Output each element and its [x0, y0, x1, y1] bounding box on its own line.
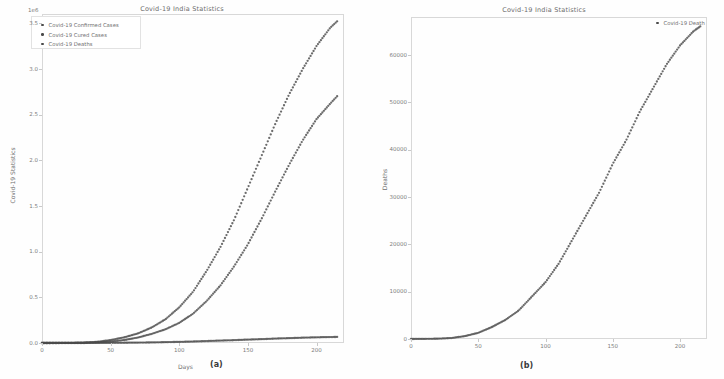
x-tick-mark [42, 343, 43, 346]
y-tick-mark [408, 102, 411, 103]
y-tick-label: 50000 [377, 99, 407, 105]
y-tick-label: 1.0 [8, 248, 38, 254]
y-tick-mark [408, 55, 411, 56]
x-tick-label: 100 [532, 343, 560, 349]
scatter-series-a [0, 0, 364, 379]
legend-item: Covid-19 Cured Cases [37, 30, 107, 40]
x-tick-label: 50 [97, 347, 125, 353]
y-tick-label: 0.0 [8, 340, 38, 346]
x-tick-mark [546, 339, 547, 342]
x-tick-label: 50 [464, 343, 492, 349]
y-tick-mark [408, 197, 411, 198]
legend-item-label: Covid-19 Confirmed Cases [49, 22, 119, 28]
x-tick-label: 150 [599, 343, 627, 349]
series-covid-19-death [410, 25, 702, 340]
x-tick-label: 100 [165, 347, 193, 353]
y-axis-label-b: Deaths [381, 150, 388, 210]
series-covid-19-confirmed-cases [41, 20, 338, 344]
x-tick-mark [411, 339, 412, 342]
y-tick-label: 0.5 [8, 294, 38, 300]
x-tick-label: 200 [303, 347, 331, 353]
y-tick-mark [408, 244, 411, 245]
y-tick-mark [39, 252, 42, 253]
x-tick-mark [111, 343, 112, 346]
series-covid-19-cured-cases [41, 95, 338, 344]
x-axis-label-a: Days [178, 363, 193, 370]
x-tick-mark [179, 343, 180, 346]
subfigure-caption-a: (a) [210, 360, 223, 369]
x-tick-label: 0 [397, 343, 425, 349]
legend-item-label: Covid-19 Cured Cases [49, 32, 107, 38]
panel-a: Covid-19 India Statistics 1e6 Covid-19 S… [0, 0, 364, 379]
x-tick-label: 0 [28, 347, 56, 353]
y-tick-mark [39, 297, 42, 298]
legend-marker-icon [656, 22, 659, 25]
y-tick-label: 3.5 [8, 20, 38, 26]
legend-item: Covid-19 Deaths [37, 39, 93, 49]
legend-b-label: Covid-19 Death [664, 20, 705, 26]
legend-marker-icon [41, 33, 44, 36]
y-tick-label: 2.0 [8, 157, 38, 163]
x-tick-mark [317, 343, 318, 346]
legend-a: Covid-19 Confirmed CasesCovid-19 Cured C… [31, 16, 141, 49]
x-tick-label: 200 [666, 343, 694, 349]
legend-item: Covid-19 Confirmed Cases [37, 20, 119, 30]
legend-marker-icon [41, 43, 44, 46]
figure-container: Covid-19 India Statistics 1e6 Covid-19 S… [0, 0, 724, 379]
y-tick-label: 2.5 [8, 111, 38, 117]
subfigure-caption-b: (b) [520, 361, 533, 370]
y-tick-label: 60000 [377, 52, 407, 58]
x-tick-mark [478, 339, 479, 342]
panel-b: Covid-19 India Statistics Days 010000200… [364, 0, 724, 379]
y-tick-mark [39, 206, 42, 207]
legend-item-label: Covid-19 Deaths [49, 41, 93, 47]
scatter-series-b [364, 0, 724, 379]
y-tick-mark [408, 150, 411, 151]
x-tick-mark [613, 339, 614, 342]
y-tick-label: 10000 [377, 288, 407, 294]
y-tick-label: 20000 [377, 241, 407, 247]
y-tick-mark [39, 115, 42, 116]
legend-marker-icon [41, 24, 44, 27]
y-tick-mark [39, 23, 42, 24]
y-tick-mark [39, 69, 42, 70]
series-covid-19-deaths [41, 336, 338, 344]
y-tick-label: 0 [377, 336, 407, 342]
y-tick-mark [39, 160, 42, 161]
y-tick-label: 3.0 [8, 66, 38, 72]
y-tick-mark [408, 292, 411, 293]
x-tick-mark [680, 339, 681, 342]
legend-b: Covid-19 Death [652, 20, 705, 26]
y-tick-label: 1.5 [8, 203, 38, 209]
x-tick-mark [248, 343, 249, 346]
x-tick-label: 150 [234, 347, 262, 353]
